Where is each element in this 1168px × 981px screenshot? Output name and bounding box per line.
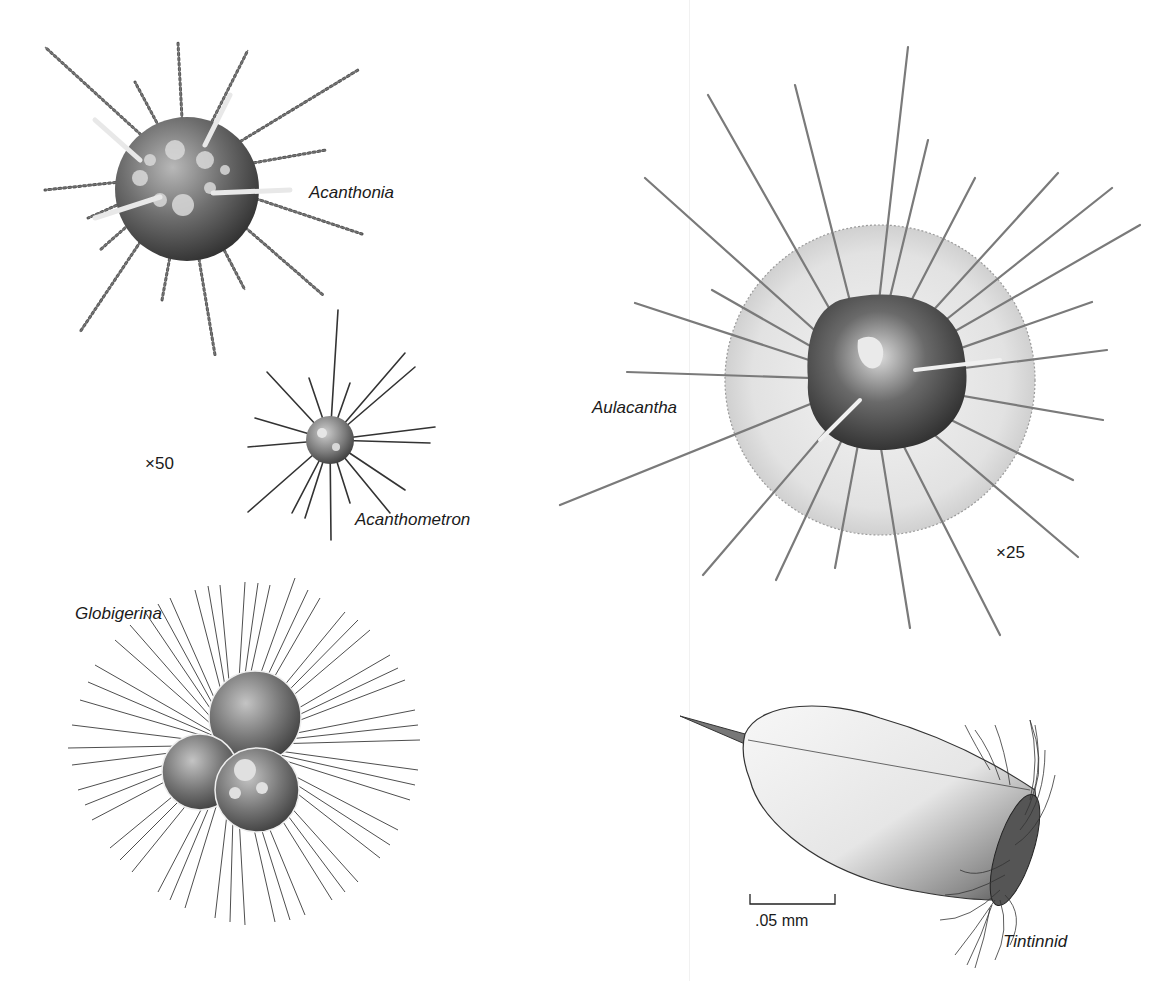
plankton-illustration	[0, 0, 1168, 981]
tintinnid-label: Tintinnid	[1003, 932, 1067, 952]
acanthometron-drawing	[248, 310, 435, 540]
magnification-x25: ×25	[996, 543, 1025, 563]
aulacantha-label: Aulacantha	[592, 398, 677, 418]
aulacantha-drawing	[560, 47, 1140, 635]
acanthonia-label: Acanthonia	[309, 183, 394, 203]
tintinnid-drawing	[680, 706, 1055, 968]
globigerina-label: Globigerina	[75, 604, 162, 624]
magnification-x50: ×50	[145, 454, 174, 474]
scale-bar-label: .05 mm	[755, 912, 808, 930]
globigerina-drawing	[68, 578, 420, 925]
acanthometron-label: Acanthometron	[355, 510, 470, 530]
scale-bar	[750, 894, 835, 904]
